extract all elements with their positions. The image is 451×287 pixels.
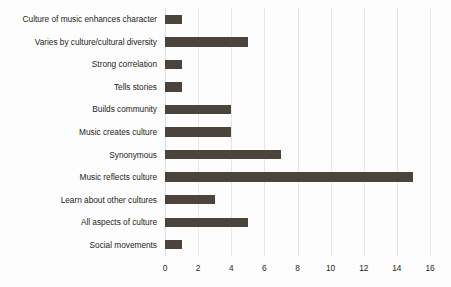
bar-track	[165, 143, 431, 166]
bar-row: Learn about other cultures	[0, 188, 451, 211]
x-axis: 0246810121416	[0, 256, 451, 287]
x-tick-label: 10	[326, 263, 335, 273]
x-tick-label: 4	[229, 263, 234, 273]
bar	[165, 15, 182, 24]
bar	[165, 218, 248, 227]
bar	[165, 195, 215, 204]
category-label: Social movements	[0, 240, 157, 250]
category-label: Varies by culture/cultural diversity	[0, 37, 157, 47]
horizontal-bar-chart: Culture of music enhances characterVarie…	[0, 0, 451, 287]
category-label: All aspects of culture	[0, 217, 157, 227]
bar-row: Music creates culture	[0, 121, 451, 144]
bar-row: Culture of music enhances character	[0, 8, 451, 31]
category-label: Builds community	[0, 104, 157, 114]
category-label: Culture of music enhances character	[0, 14, 157, 24]
x-tick-label: 14	[392, 263, 401, 273]
bar-track	[165, 166, 431, 189]
bar-track	[165, 76, 431, 99]
x-tick-label: 12	[359, 263, 368, 273]
x-tick-label: 2	[196, 263, 201, 273]
bar-track	[165, 211, 431, 234]
x-tick-label: 8	[295, 263, 300, 273]
bar-track	[165, 98, 431, 121]
category-label: Tells stories	[0, 82, 157, 92]
bar-row: Strong correlation	[0, 53, 451, 76]
bar	[165, 127, 231, 136]
category-label: Music reflects culture	[0, 172, 157, 182]
bar-row: Social movements	[0, 233, 451, 256]
x-tick-label: 6	[262, 263, 267, 273]
bar-row: Varies by culture/cultural diversity	[0, 31, 451, 54]
bar-rows: Culture of music enhances characterVarie…	[0, 8, 451, 256]
bar-track	[165, 53, 431, 76]
bar-row: Synonymous	[0, 143, 451, 166]
bar-track	[165, 8, 431, 31]
x-tick-label: 16	[425, 263, 434, 273]
bar-row: Tells stories	[0, 76, 451, 99]
bar-track	[165, 233, 431, 256]
bar	[165, 37, 248, 46]
bar	[165, 60, 182, 69]
bar-row: Music reflects culture	[0, 166, 451, 189]
bar-row: Builds community	[0, 98, 451, 121]
category-label: Strong correlation	[0, 59, 157, 69]
bar	[165, 82, 182, 91]
bar-track	[165, 121, 431, 144]
bar	[165, 240, 182, 249]
bar	[165, 172, 413, 181]
bar-row: All aspects of culture	[0, 211, 451, 234]
category-label: Learn about other cultures	[0, 195, 157, 205]
category-label: Music creates culture	[0, 127, 157, 137]
bar-track	[165, 31, 431, 54]
bar-track	[165, 188, 431, 211]
category-label: Synonymous	[0, 150, 157, 160]
bar	[165, 105, 231, 114]
bar	[165, 150, 281, 159]
x-tick-label: 0	[163, 263, 168, 273]
